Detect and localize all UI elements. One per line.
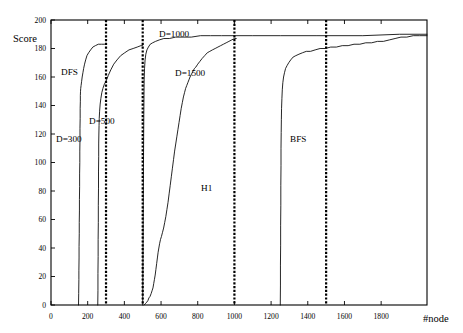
series-annotation-d-1500: D=1500	[175, 68, 206, 78]
series-annotation-bfs: BFS	[290, 134, 306, 144]
y-tick-label: 40	[38, 244, 46, 253]
series-annotation-d-300: D=300	[56, 134, 82, 144]
y-tick-label: 80	[38, 187, 46, 196]
y-axis-title: Score	[13, 33, 37, 44]
x-tick-label: 200	[82, 312, 94, 321]
y-tick-label: 160	[35, 73, 47, 82]
chart-background	[0, 0, 463, 333]
y-tick-label: 0	[42, 301, 46, 310]
series-annotation-d-1000: D=1000	[159, 29, 190, 39]
x-tick-label: 600	[155, 312, 167, 321]
x-tick-label: 0	[49, 312, 53, 321]
chart-figure: 020406080100120140160180200 020040060080…	[0, 0, 463, 333]
x-axis-title: #node	[423, 313, 449, 324]
score-vs-node-line-chart: 020406080100120140160180200 020040060080…	[0, 0, 463, 333]
x-tick-label: 1000	[227, 312, 242, 321]
x-tick-label: 1200	[264, 312, 279, 321]
x-tick-label: 1400	[300, 312, 315, 321]
y-tick-label: 20	[38, 272, 46, 281]
x-tick-label: 800	[192, 312, 204, 321]
y-tick-label: 60	[38, 215, 46, 224]
x-tick-label: 1800	[374, 312, 389, 321]
y-tick-label: 200	[35, 16, 47, 25]
x-tick-label: 1600	[337, 312, 352, 321]
y-tick-label: 120	[35, 130, 47, 139]
x-tick-label: 400	[119, 312, 131, 321]
y-tick-label: 140	[35, 101, 47, 110]
y-tick-label: 180	[35, 44, 47, 53]
series-annotation-d-500: D=500	[89, 116, 115, 126]
y-tick-label: 100	[35, 158, 47, 167]
series-annotation-dfs: DFS	[61, 67, 78, 77]
series-annotation-h1: H1	[201, 183, 213, 193]
